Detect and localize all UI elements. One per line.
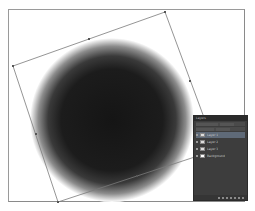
new-layer-icon[interactable] — [238, 197, 240, 199]
eye-icon[interactable] — [196, 134, 198, 136]
layer-row[interactable]: Background — [196, 153, 245, 159]
handle-top-right — [164, 11, 166, 13]
handle-top — [88, 38, 90, 40]
link-layers-icon[interactable] — [218, 197, 220, 199]
handle-left — [35, 133, 37, 135]
opacity-field[interactable] — [220, 123, 234, 126]
eye-icon[interactable] — [196, 141, 198, 143]
blend-mode-row[interactable] — [196, 122, 245, 126]
layers-panel-footer — [194, 195, 247, 200]
lock-fill-row[interactable] — [196, 127, 245, 131]
layers-tab[interactable]: Layers — [196, 116, 206, 121]
eye-icon[interactable] — [196, 155, 198, 157]
layer-row[interactable]: Layer 1 — [196, 132, 245, 138]
layer-row[interactable]: Layer 2 — [196, 139, 245, 145]
layers-panel[interactable]: Layers Layer 1 Layer 2 Layer 3 Backgroun… — [193, 115, 248, 201]
layers-panel-header[interactable]: Layers — [194, 116, 247, 121]
layer-thumbnail — [200, 147, 205, 151]
lock-icons[interactable] — [196, 128, 214, 131]
fx-icon[interactable] — [222, 197, 224, 199]
handle-right — [189, 80, 191, 82]
layer-thumbnail — [200, 140, 205, 144]
layer-name: Background — [207, 154, 225, 158]
layer-row[interactable]: Layer 3 — [196, 146, 245, 152]
layer-name: Layer 1 — [207, 133, 218, 137]
handle-top-left — [12, 65, 14, 67]
layer-name: Layer 3 — [207, 147, 218, 151]
handle-bottom — [136, 175, 138, 177]
trash-icon[interactable] — [242, 197, 244, 199]
adjustment-icon[interactable] — [230, 197, 232, 199]
layer-thumbnail — [200, 133, 205, 137]
layer-thumbnail — [200, 154, 205, 158]
eye-icon[interactable] — [196, 148, 198, 150]
gradient-circle — [30, 38, 194, 202]
handle-bottom-left — [57, 201, 59, 203]
fill-field[interactable] — [216, 128, 230, 131]
group-icon[interactable] — [234, 197, 236, 199]
mask-icon[interactable] — [226, 197, 228, 199]
blend-mode-select[interactable] — [196, 123, 218, 126]
layer-name: Layer 2 — [207, 140, 218, 144]
